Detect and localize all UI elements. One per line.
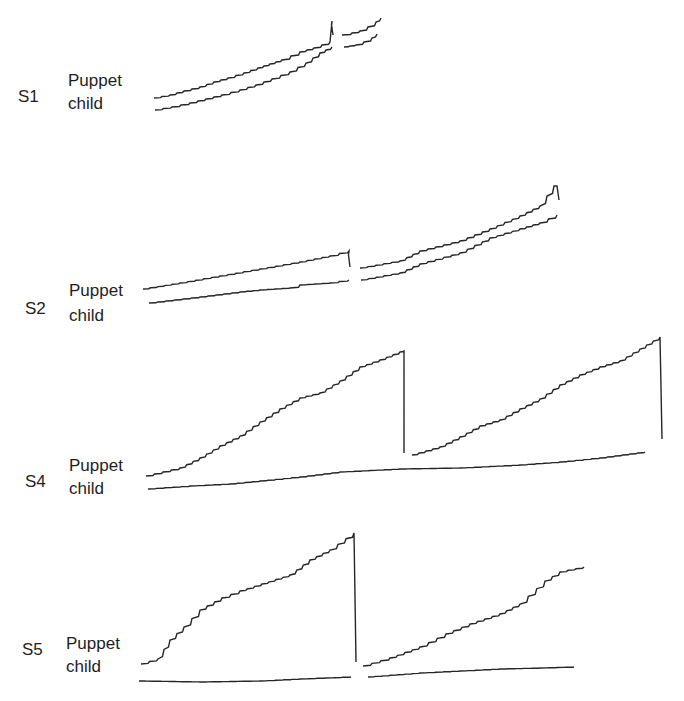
trace-s1-child-seg2 [344,34,377,47]
trace-s4-child-seg1 [148,452,645,489]
trace-s1-child-seg1 [155,47,332,110]
trace-s5-puppet-seg2 [363,567,584,666]
trace-s1-puppet-seg2 [342,18,381,35]
trace-s1-puppet-seg1 [154,21,333,98]
trace-s4-puppet-seg2 [412,337,662,455]
trace-s5-child-seg1 [139,677,351,682]
trace-s5-puppet-seg1 [141,533,356,664]
trace-s5-child-seg2 [368,667,574,677]
trace-s2-child-seg2 [361,215,557,280]
trace-s4-puppet-seg1 [146,351,404,476]
cumulative-record-plot [0,0,684,701]
